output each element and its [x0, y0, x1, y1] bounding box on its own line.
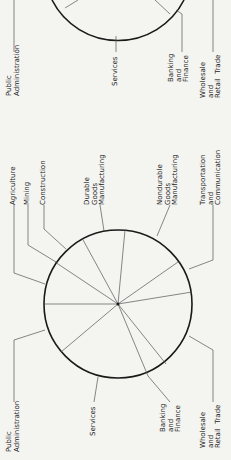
pie-chart-figure: Public Administration Services Banking a… [0, 0, 231, 460]
label-services-top: Services [112, 56, 120, 86]
label-services: Services [90, 406, 98, 436]
label-construction: Construction [40, 160, 48, 205]
label-wholesale-retail-trade: Wholesale and Retail Trade [200, 405, 223, 448]
label-banking-finance-top: Banking and Finance [168, 54, 191, 82]
partial-pie-top [14, 0, 213, 52]
label-banking-finance: Banking and Finance [160, 404, 183, 432]
label-transportation-communication: Transportation and Communication [200, 150, 223, 205]
label-public-administration: Public Administration [6, 401, 21, 452]
label-agriculture: Agriculture [10, 167, 18, 206]
label-public-administration-top: Public Administration [6, 45, 21, 96]
pie-main [14, 205, 213, 402]
label-mining: Mining [24, 182, 32, 205]
label-durable-goods-manufacturing: Durable Goods Manufacturing [84, 154, 107, 205]
label-wholesale-retail-top: Wholesale and Retail Trade [200, 55, 223, 98]
label-nondurable-goods-manufacturing: Nondurable Goods Manufacturing [157, 154, 180, 205]
